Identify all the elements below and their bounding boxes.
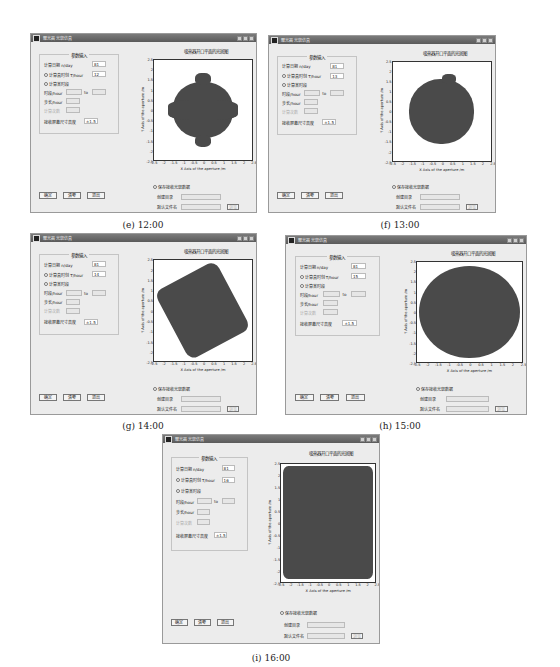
count-input[interactable]	[66, 107, 80, 113]
filename-input[interactable]	[420, 204, 460, 210]
browse-button[interactable]: 浏览	[227, 204, 239, 210]
period-radio[interactable]	[282, 83, 286, 87]
filename-input[interactable]	[181, 204, 221, 210]
clear-button[interactable]: 清零	[63, 394, 81, 401]
hour-radio[interactable]	[44, 73, 48, 77]
x-tick: -0.5	[191, 161, 198, 165]
period-start-input[interactable]	[66, 290, 82, 296]
count-input[interactable]	[304, 108, 318, 114]
path-input[interactable]	[307, 622, 345, 628]
count-input[interactable]	[66, 308, 80, 314]
period-radio[interactable]	[44, 82, 48, 86]
minimize-button[interactable]	[476, 38, 481, 43]
day-input[interactable]: 81	[330, 63, 344, 69]
maximize-button[interactable]	[482, 38, 487, 43]
count-input[interactable]	[197, 519, 210, 525]
path-input[interactable]	[420, 194, 460, 200]
period-radio[interactable]	[300, 284, 304, 288]
path-input[interactable]	[181, 396, 221, 402]
hour-radio[interactable]	[300, 275, 304, 279]
period-start-input[interactable]	[323, 291, 340, 297]
minimize-button[interactable]	[237, 236, 242, 241]
day-input[interactable]: 81	[351, 263, 366, 269]
exit-button[interactable]: 退出	[325, 192, 343, 199]
close-button[interactable]	[249, 36, 254, 41]
hour-input[interactable]: 16	[222, 477, 235, 483]
day-input[interactable]: 81	[92, 61, 106, 67]
exit-button[interactable]: 退出	[217, 619, 234, 626]
step-input[interactable]	[66, 299, 80, 305]
ok-button[interactable]: 确定	[39, 394, 57, 401]
path-input[interactable]	[446, 396, 489, 402]
period-end-input[interactable]	[92, 89, 106, 95]
maximize-button[interactable]	[243, 236, 248, 241]
period-end-input[interactable]	[92, 290, 106, 296]
clear-button[interactable]: 清零	[301, 192, 319, 199]
filename-input[interactable]	[307, 633, 345, 639]
save-checkbox[interactable]	[392, 185, 396, 189]
step-input[interactable]	[323, 300, 338, 306]
hour-radio[interactable]	[44, 273, 48, 277]
save-checkbox[interactable]	[153, 387, 157, 391]
close-button[interactable]	[519, 238, 524, 243]
browse-button[interactable]: 浏览	[351, 633, 363, 639]
browse-button[interactable]: 浏览	[466, 204, 478, 210]
minimize-button[interactable]	[360, 437, 365, 442]
ok-button[interactable]: 确定	[39, 192, 57, 199]
day-input[interactable]: 81	[92, 261, 106, 267]
close-button[interactable]	[372, 437, 377, 442]
exit-button[interactable]: 退出	[346, 394, 365, 401]
to-label: to	[84, 290, 90, 297]
filename-input[interactable]	[181, 406, 221, 412]
save-checkbox[interactable]	[153, 185, 157, 189]
exit-button[interactable]: 退出	[87, 192, 105, 199]
clear-button[interactable]: 清零	[320, 394, 339, 401]
clear-button[interactable]: 清零	[63, 192, 81, 199]
ok-button[interactable]: 确定	[277, 192, 295, 199]
parameter-input-group: 参数输入 计算日期 n/day 计算真时刻 T/hour 计算某时段 时段/ho…	[295, 256, 380, 336]
hour-input[interactable]: 15	[351, 273, 366, 279]
hour-input[interactable]: 13	[330, 73, 344, 79]
ok-button[interactable]: 确定	[171, 619, 188, 626]
period-start-input[interactable]	[66, 89, 82, 95]
maximize-button[interactable]	[366, 437, 371, 442]
x-tick: 1	[462, 162, 464, 166]
receiver-size-input[interactable]: ±1.5	[342, 320, 357, 326]
filename-input[interactable]	[446, 406, 489, 412]
minimize-button[interactable]	[237, 36, 242, 41]
receiver-size-input[interactable]: ±1.5	[214, 532, 227, 538]
hour-input[interactable]: 14	[92, 271, 106, 277]
count-input[interactable]	[323, 309, 338, 315]
save-checkbox[interactable]	[416, 387, 420, 391]
period-end-input[interactable]	[351, 291, 366, 297]
ok-button[interactable]: 确定	[295, 394, 314, 401]
period-end-input[interactable]	[330, 90, 344, 96]
maximize-button[interactable]	[243, 36, 248, 41]
clear-button[interactable]: 清零	[194, 619, 211, 626]
y-tick: -0.5	[146, 320, 153, 324]
period-radio[interactable]	[44, 282, 48, 286]
hour-radio[interactable]	[176, 478, 180, 482]
close-button[interactable]	[249, 236, 254, 241]
receiver-size-input[interactable]: ±1.5	[84, 118, 98, 124]
receiver-size-input[interactable]: ±1.5	[84, 319, 98, 325]
step-input[interactable]	[304, 99, 318, 105]
step-input[interactable]	[197, 509, 210, 515]
period-start-input[interactable]	[197, 498, 212, 504]
exit-button[interactable]: 退出	[87, 394, 105, 401]
period-radio[interactable]	[176, 489, 180, 493]
receiver-size-input[interactable]: ±1.5	[322, 119, 336, 125]
period-start-input[interactable]	[304, 90, 320, 96]
maximize-button[interactable]	[513, 238, 518, 243]
day-input[interactable]: 81	[222, 465, 235, 471]
minimize-button[interactable]	[507, 238, 512, 243]
period-end-input[interactable]	[222, 498, 235, 504]
path-input[interactable]	[181, 194, 221, 200]
hour-input[interactable]: 12	[92, 71, 106, 77]
hour-radio[interactable]	[282, 74, 286, 78]
close-button[interactable]	[488, 38, 493, 43]
browse-button[interactable]: 浏览	[227, 406, 239, 412]
save-checkbox[interactable]	[280, 611, 284, 615]
browse-button[interactable]: 浏览	[495, 406, 508, 412]
step-input[interactable]	[66, 98, 80, 104]
